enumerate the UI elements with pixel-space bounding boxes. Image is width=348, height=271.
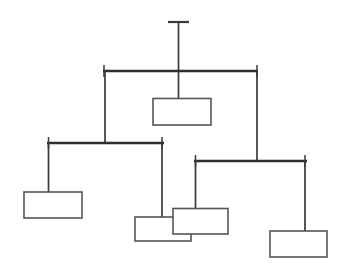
node-leaf-d[interactable] xyxy=(270,231,327,257)
leaf-node-a-box[interactable] xyxy=(24,192,82,218)
leaf-node-c-box[interactable] xyxy=(173,209,228,235)
org-chart-diagram xyxy=(0,0,348,271)
node-leaf-a[interactable] xyxy=(24,192,82,218)
org-chart-canvas xyxy=(0,0,348,271)
center-node-box[interactable] xyxy=(153,99,211,126)
node-leaf-c[interactable] xyxy=(173,209,228,235)
leaf-node-d-box[interactable] xyxy=(270,231,327,257)
node-center[interactable] xyxy=(153,99,211,126)
